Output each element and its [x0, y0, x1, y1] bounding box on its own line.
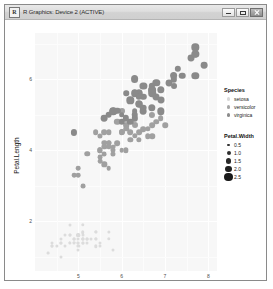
data-point	[73, 241, 76, 244]
legend-species: Species setosaversicolorvirginica	[224, 87, 255, 119]
legend-key-icon	[224, 97, 233, 100]
data-point	[170, 76, 176, 82]
legend-key-icon	[224, 166, 233, 173]
data-point	[136, 137, 141, 142]
y-tick-label: 6	[23, 76, 32, 82]
data-point	[123, 148, 128, 153]
window-titlebar[interactable]: R R Graphics: Device 2 (ACTIVE)	[5, 5, 266, 20]
data-point	[157, 86, 164, 93]
data-point	[102, 151, 107, 156]
grid-line-minor-y	[35, 186, 217, 187]
data-point	[77, 238, 80, 241]
data-point	[157, 97, 164, 104]
data-point	[64, 234, 67, 237]
x-tick-label: 7	[164, 273, 167, 279]
data-point	[94, 237, 97, 240]
data-point	[68, 234, 71, 237]
data-point	[123, 91, 129, 97]
legend-item: versicolor	[224, 103, 255, 111]
grid-line-x	[208, 33, 209, 271]
grid-line-y	[35, 221, 217, 222]
grid-line-minor-y	[35, 44, 217, 45]
data-point	[162, 123, 168, 129]
legend-item: 1.0	[224, 149, 254, 157]
minimize-button[interactable]	[222, 8, 235, 17]
data-point	[76, 173, 81, 178]
data-point	[94, 230, 97, 233]
data-point	[107, 237, 110, 240]
data-point	[179, 72, 186, 79]
data-point	[90, 238, 93, 241]
plot-panel	[35, 33, 217, 271]
data-point	[51, 245, 54, 248]
y-axis-label: Petal.Length	[13, 126, 20, 186]
data-point	[81, 223, 84, 226]
data-point	[98, 245, 101, 248]
data-point	[47, 252, 50, 255]
data-point	[145, 133, 151, 139]
data-point	[98, 159, 103, 164]
legend-species-title: Species	[224, 87, 255, 93]
data-point	[192, 51, 199, 58]
data-point	[71, 129, 77, 135]
y-tick-label: 2	[23, 218, 32, 224]
x-tick-label: 5	[77, 273, 80, 279]
legend-item-label: virginica	[234, 112, 252, 118]
x-tick-label: 6	[120, 273, 123, 279]
data-point	[149, 122, 155, 128]
legend-item-label: setosa	[234, 96, 249, 102]
legend-key-icon	[224, 158, 233, 163]
legend-petal-width: Petal.Width 0.51.01.52.02.5	[224, 133, 254, 181]
data-point	[149, 112, 155, 118]
data-point	[72, 238, 75, 241]
data-point	[127, 97, 134, 104]
data-point	[123, 126, 129, 132]
data-point	[97, 133, 102, 138]
legend-item: 2.0	[224, 165, 254, 173]
data-point	[81, 238, 84, 241]
data-point	[76, 234, 80, 238]
plot-canvas: Sepal.Length Petal.Length Species setosa…	[6, 21, 265, 279]
data-point	[148, 104, 155, 111]
legend-item-label: versicolor	[234, 104, 255, 110]
data-point	[128, 137, 133, 142]
legend-key-icon	[224, 144, 233, 147]
legend-item-label: 2.5	[234, 174, 241, 180]
legend-item: 2.5	[224, 173, 254, 181]
r-logo-icon: R	[9, 7, 20, 18]
data-point	[68, 223, 71, 226]
close-button[interactable]	[250, 8, 263, 17]
data-point	[77, 245, 80, 248]
grid-line-x	[165, 33, 166, 271]
data-point	[201, 62, 208, 69]
data-point	[107, 230, 110, 233]
window-controls	[221, 8, 263, 17]
legend-item-label: 1.5	[234, 158, 241, 164]
data-point	[76, 166, 81, 171]
grid-line-minor-x	[143, 33, 144, 271]
legend-key-icon	[224, 151, 233, 155]
data-point	[59, 241, 62, 244]
data-point	[84, 151, 90, 157]
legend-item: 0.5	[224, 141, 254, 149]
legend-item-label: 0.5	[234, 142, 241, 148]
legend-key-icon	[224, 173, 233, 181]
maximize-button[interactable]	[236, 8, 249, 17]
data-point	[111, 248, 114, 251]
data-point	[106, 166, 111, 171]
legend-key-icon	[224, 113, 233, 116]
data-point	[148, 86, 156, 94]
window-title: R Graphics: Device 2 (ACTIVE)	[23, 9, 221, 15]
data-point	[171, 83, 177, 89]
grid-line-minor-x	[187, 33, 188, 271]
data-point	[59, 255, 62, 258]
data-point	[86, 238, 89, 241]
y-tick-label: 4	[23, 147, 32, 153]
data-point	[77, 248, 80, 251]
x-tick-label: 8	[207, 273, 210, 279]
data-point	[131, 75, 139, 83]
legend-item: 1.5	[224, 157, 254, 165]
data-point	[140, 104, 147, 111]
legend-key-icon	[224, 105, 233, 108]
data-point	[94, 244, 97, 247]
